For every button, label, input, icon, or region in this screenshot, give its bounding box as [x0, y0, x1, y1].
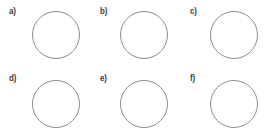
panel-label-c: c): [190, 7, 197, 16]
circle-outline-a: [32, 11, 80, 59]
panel-label-f: f): [190, 74, 195, 83]
panel-label-e: e): [100, 74, 107, 83]
panel-label-a: a): [9, 7, 16, 16]
circle-grid-figure: a) b) c) d) e) f): [0, 0, 276, 136]
circle-outline-d: [32, 80, 80, 128]
circle-outline-c: [210, 11, 258, 59]
circle-outline-e: [120, 80, 168, 128]
panel-label-d: d): [9, 74, 16, 83]
panel-label-b: b): [100, 7, 107, 16]
circle-outline-b: [120, 11, 168, 59]
circle-outline-f: [210, 80, 258, 128]
